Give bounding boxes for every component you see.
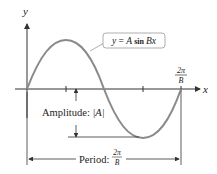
y-axis-label: y xyxy=(22,5,28,17)
svg-text:B: B xyxy=(179,76,184,85)
sine-diagram: y x 2π B y = A sin Bx Amplitude: |A| Per… xyxy=(0,0,217,174)
svg-text:B: B xyxy=(115,158,120,167)
x-axis-label: x xyxy=(202,83,208,95)
svg-text:2π: 2π xyxy=(177,66,186,75)
equation-label: y = A sin Bx xyxy=(111,36,157,46)
amplitude-label: Amplitude: |A| xyxy=(42,107,105,118)
period-indicator: Period: 2π B xyxy=(27,92,181,167)
equation-callout: y = A sin Bx xyxy=(90,33,165,51)
period-label: Period: xyxy=(79,154,109,165)
svg-text:2π: 2π xyxy=(113,148,121,157)
amplitude-indicator: Amplitude: |A| xyxy=(42,89,139,137)
period-tick-label: 2π B xyxy=(175,66,187,85)
